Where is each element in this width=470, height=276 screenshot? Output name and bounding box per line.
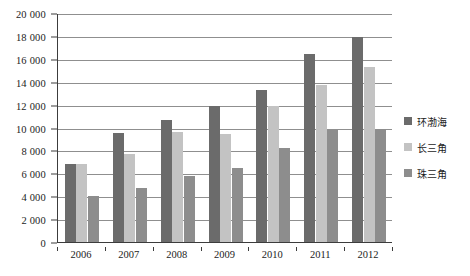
bar-珠三角-2008 <box>184 176 195 242</box>
bar-group-2007 <box>113 14 147 242</box>
plot-area <box>57 14 392 243</box>
y-tick-label: 18 000 <box>16 31 46 42</box>
bar-长三角-2007 <box>124 154 135 242</box>
bar-长三角-2009 <box>220 134 231 242</box>
bar-长三角-2008 <box>172 132 183 242</box>
bar-珠三角-2006 <box>88 196 99 242</box>
bar-group-2012 <box>352 14 386 242</box>
x-tick-mark <box>57 247 58 251</box>
y-tick-label: 20 000 <box>16 9 46 20</box>
bar-珠三角-2010 <box>279 148 290 242</box>
x-tick-mark <box>344 247 345 251</box>
bar-chart: 02 0004 0006 0008 00010 00012 00014 0001… <box>0 0 470 276</box>
bar-group-2009 <box>209 14 243 242</box>
x-tick-mark <box>296 247 297 251</box>
x-tick-label-2011: 2011 <box>310 249 331 260</box>
bar-长三角-2011 <box>316 85 327 242</box>
y-tick-label: 2 000 <box>21 215 46 226</box>
y-tick-label: 0 <box>41 238 46 249</box>
bar-环渤海-2007 <box>113 133 124 242</box>
bar-长三角-2012 <box>364 67 375 242</box>
legend-swatch-icon <box>404 143 412 151</box>
x-tick-mark <box>105 247 106 251</box>
x-tick-mark <box>201 247 202 251</box>
bar-长三角-2010 <box>268 106 279 242</box>
y-tick-label: 12 000 <box>16 100 46 111</box>
y-tick-label: 4 000 <box>21 192 46 203</box>
bar-环渤海-2011 <box>304 54 315 242</box>
bar-group-2010 <box>256 14 290 242</box>
x-tick-mark <box>248 247 249 251</box>
x-axis: 2006200720082009201020112012 <box>57 247 392 269</box>
y-tick-label: 6 000 <box>21 169 46 180</box>
bar-环渤海-2012 <box>352 37 363 242</box>
legend-item-长三角[interactable]: 长三角 <box>404 134 468 160</box>
x-tick-label-2008: 2008 <box>166 249 187 260</box>
legend-label: 珠三角 <box>417 166 447 181</box>
x-tick-label-2006: 2006 <box>70 249 91 260</box>
x-tick-label-2007: 2007 <box>118 249 139 260</box>
bar-group-2011 <box>304 14 338 242</box>
x-tick-mark <box>392 247 393 251</box>
x-tick-label-2012: 2012 <box>358 249 379 260</box>
x-tick-label-2009: 2009 <box>214 249 235 260</box>
y-tick-label: 14 000 <box>16 77 46 88</box>
bar-group-2006 <box>65 14 99 242</box>
y-tick-label: 16 000 <box>16 54 46 65</box>
bar-长三角-2006 <box>76 164 87 242</box>
bar-group-2008 <box>161 14 195 242</box>
bars-layer <box>58 14 392 242</box>
legend-swatch-icon <box>404 169 412 177</box>
bar-珠三角-2009 <box>232 168 243 242</box>
bar-珠三角-2012 <box>375 129 386 242</box>
y-axis: 02 0004 0006 0008 00010 00012 00014 0001… <box>0 0 57 276</box>
legend-swatch-icon <box>404 117 412 125</box>
legend-item-珠三角[interactable]: 珠三角 <box>404 160 468 186</box>
x-tick-mark <box>153 247 154 251</box>
bar-环渤海-2006 <box>65 164 76 242</box>
y-tick-label: 8 000 <box>21 146 46 157</box>
bar-环渤海-2010 <box>256 90 267 242</box>
x-tick-label-2010: 2010 <box>262 249 283 260</box>
bar-珠三角-2011 <box>327 130 338 242</box>
legend-item-环渤海[interactable]: 环渤海 <box>404 108 468 134</box>
legend: 环渤海长三角珠三角 <box>404 108 468 186</box>
bar-环渤海-2008 <box>161 120 172 243</box>
bar-环渤海-2009 <box>209 106 220 242</box>
bar-珠三角-2007 <box>136 188 147 242</box>
legend-label: 长三角 <box>417 140 447 155</box>
y-tick-label: 10 000 <box>16 123 46 134</box>
legend-label: 环渤海 <box>417 114 447 129</box>
